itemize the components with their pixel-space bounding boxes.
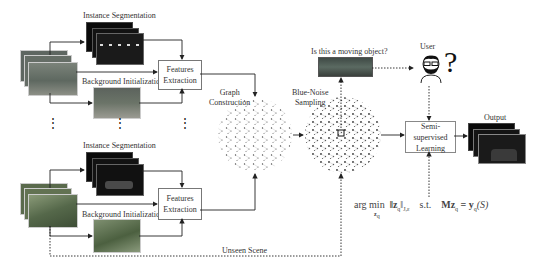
graph-point-cloud — [218, 98, 292, 172]
connector-layer — [0, 0, 539, 270]
sampled-point-cloud — [305, 97, 381, 173]
